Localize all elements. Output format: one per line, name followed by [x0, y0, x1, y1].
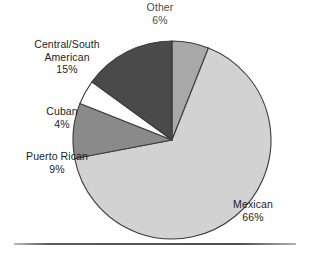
- slice-label-cuban-name: Cuban: [46, 105, 77, 117]
- slice-label-mexican: Mexican 66%: [208, 198, 298, 223]
- slice-label-other: Other 6%: [118, 1, 202, 26]
- slice-label-other-value: 6%: [118, 14, 202, 27]
- slice-label-central-south-american: Central/South American 15%: [12, 38, 122, 76]
- slice-label-central-south-value: 15%: [12, 63, 122, 76]
- slice-label-mexican-value: 66%: [208, 211, 298, 224]
- slice-label-cuban-value: 4%: [18, 118, 106, 131]
- slice-label-puerto-rican-name: Puerto Rican: [26, 150, 88, 162]
- bottom-divider-rule: [14, 243, 296, 245]
- slice-label-central-south-line1: Central/South: [34, 38, 100, 50]
- slice-label-other-name: Other: [147, 1, 174, 13]
- slice-label-mexican-name: Mexican: [233, 198, 273, 210]
- slice-label-cuban: Cuban 4%: [18, 105, 106, 130]
- pie-chart-figure: Other 6% Central/South American 15% Cuba…: [0, 0, 309, 253]
- slice-label-puerto-rican: Puerto Rican 9%: [2, 150, 112, 175]
- slice-label-central-south-line2: American: [12, 51, 122, 64]
- slice-label-puerto-rican-value: 9%: [2, 163, 112, 176]
